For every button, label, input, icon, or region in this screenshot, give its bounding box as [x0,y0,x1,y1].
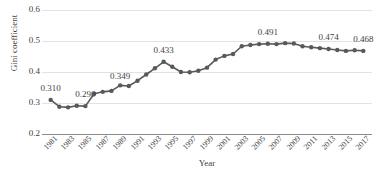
data-point-marker [318,46,322,50]
data-point-marker [57,105,61,109]
x-axis-title: Year [42,158,372,168]
data-point-marker [361,49,365,53]
x-axis-tick-labels: 1981198319851987198919911993199519971999… [42,134,372,160]
data-point-marker [153,66,157,70]
gini-coefficient-line-chart: Gini coefficient 0.20.30.40.50.6 0.3100.… [0,0,381,174]
data-point-marker [48,98,52,102]
data-point-marker [213,57,217,61]
data-point-marker [231,52,235,56]
data-point-marker [292,41,296,45]
gini-series [42,10,372,134]
data-label-0-349: 0.349 [110,72,130,81]
data-point-marker [109,89,113,93]
y-tick-label: 0.6 [14,5,40,14]
data-point-marker [335,48,339,52]
data-point-marker [240,44,244,48]
series-line [51,43,364,107]
data-point-marker [266,42,270,46]
data-label-0-290: 0.290 [75,90,95,99]
data-point-marker [205,65,209,69]
y-tick-label: 0.4 [14,67,40,76]
plot-area: 0.3100.2900.3490.4330.4910.4740.468 [42,10,372,134]
data-point-marker [326,47,330,51]
data-point-marker [75,104,79,108]
data-label-0-468: 0.468 [353,35,373,44]
data-point-marker [170,65,174,69]
data-point-marker [309,45,313,49]
data-point-marker [300,44,304,48]
data-point-marker [118,83,122,87]
data-point-marker [352,48,356,52]
data-label-0-433: 0.433 [153,46,173,55]
data-point-marker [283,41,287,45]
data-point-marker [257,42,261,46]
data-point-marker [135,78,139,82]
data-point-marker [66,105,70,109]
data-point-marker [344,49,348,53]
y-tick-label: 0.3 [14,98,40,107]
data-point-marker [187,70,191,74]
y-axis-tick-labels: 0.20.30.40.50.6 [0,0,40,174]
data-point-marker [274,42,278,46]
data-label-0-310: 0.310 [41,84,61,93]
data-point-marker [161,60,165,64]
y-tick-label: 0.5 [14,36,40,45]
data-point-marker [127,84,131,88]
data-point-marker [101,90,105,94]
data-point-marker [83,104,87,108]
data-point-marker [144,72,148,76]
data-point-marker [179,70,183,74]
data-point-marker [196,69,200,73]
data-label-0-474: 0.474 [318,33,338,42]
y-tick-label: 0.2 [14,129,40,138]
data-point-marker [248,43,252,47]
data-point-marker [222,54,226,58]
data-label-0-491: 0.491 [258,28,278,37]
